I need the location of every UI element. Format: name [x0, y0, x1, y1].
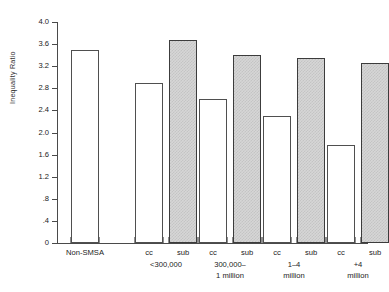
y-axis-tick: 1.6	[52, 155, 57, 156]
y-axis-tick-label: .4	[43, 216, 49, 225]
y-axis-tick-label: 2.0	[38, 128, 49, 137]
y-axis-title: Inequality Ratio	[8, 90, 17, 104]
inequality-ratio-bar-chart: Inequality Ratio 0.4.81.21.62.02.42.83.2…	[0, 0, 389, 292]
bar-sub-5	[361, 63, 389, 243]
bar-sub-3	[233, 55, 261, 243]
y-axis-tick: 0	[52, 243, 57, 244]
group-label: 1–4 million	[283, 260, 305, 281]
bar-label: cc	[209, 248, 217, 257]
y-axis-tick: .8	[52, 199, 57, 200]
bar-label: Non-SMSA	[66, 248, 104, 257]
group-label: +4 million	[347, 260, 369, 281]
bar-cc-2	[135, 83, 163, 243]
x-axis-tick	[227, 237, 228, 243]
y-axis-tick-label: .8	[43, 194, 49, 203]
bar-label: sub	[177, 248, 189, 257]
bar-label: sub	[369, 248, 381, 257]
y-axis-tick-label: 3.6	[38, 39, 49, 48]
y-axis-tick-label: 4.0	[38, 17, 49, 26]
y-axis-tick: 2.0	[52, 133, 57, 134]
y-axis-tick: 3.2	[52, 66, 57, 67]
bar-label: sub	[305, 248, 317, 257]
bar-label: sub	[241, 248, 253, 257]
bar-cc-5	[327, 145, 355, 243]
y-axis-tick: 2.8	[52, 88, 57, 89]
plot-area: 0.4.81.21.62.02.42.83.23.64.0 Non-SMSAcc…	[57, 22, 368, 243]
group-label: <300,000	[150, 260, 182, 271]
y-axis-tick: 1.2	[52, 177, 57, 178]
x-axis-tick	[355, 237, 356, 243]
bar-cc-4	[263, 116, 291, 243]
x-axis-line	[57, 243, 368, 244]
y-axis-tick-label: 0	[45, 238, 49, 247]
y-axis-tick-label: 2.4	[38, 105, 49, 114]
group-label: 300,000– 1 million	[214, 260, 246, 281]
bar-label: cc	[273, 248, 281, 257]
y-axis-tick: 3.6	[52, 44, 57, 45]
x-axis-tick	[163, 237, 164, 243]
bar-label: cc	[145, 248, 153, 257]
y-axis-tick-label: 2.8	[38, 83, 49, 92]
x-axis-tick	[291, 237, 292, 243]
bar-label: cc	[337, 248, 345, 257]
y-axis-line	[57, 22, 58, 243]
bar-sub-2	[169, 40, 197, 243]
y-axis-tick-label: 1.6	[38, 150, 49, 159]
y-axis-tick: 4.0	[52, 22, 57, 23]
y-axis-tick: 2.4	[52, 110, 57, 111]
x-axis-tick	[99, 237, 100, 243]
bar-cc-1	[71, 50, 99, 243]
bar-cc-3	[199, 99, 227, 243]
y-axis-tick-label: 1.2	[38, 172, 49, 181]
y-axis-tick-label: 3.2	[38, 61, 49, 70]
y-axis-tick: .4	[52, 221, 57, 222]
bar-sub-4	[297, 58, 325, 243]
